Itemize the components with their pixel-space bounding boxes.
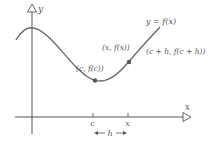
point-c — [93, 78, 97, 82]
point-x-label: (x, f(x)) — [102, 43, 130, 52]
y-axis-label: y — [37, 4, 44, 14]
interval-h: h — [94, 129, 127, 138]
y-axis: y — [28, 4, 45, 134]
interval-h-label: h — [108, 129, 113, 138]
arrow-left-icon — [94, 131, 98, 135]
x-axis-arrow-icon — [183, 113, 191, 122]
x-axis-label: x — [185, 102, 190, 112]
arrow-right-icon — [123, 131, 127, 135]
tick-x-label: x — [126, 119, 131, 128]
point-x — [127, 60, 131, 64]
derivative-diagram: y x y = f(x) (c, f(c)) (x, f(x)) (c + h,… — [0, 0, 219, 142]
curve-label: y = f(x) — [145, 17, 176, 26]
x-axis: x — [15, 102, 191, 122]
tick-c-label: c — [91, 119, 96, 128]
secant-point-label: (c + h, f(c + h)) — [146, 47, 205, 56]
y-axis-arrow-icon — [28, 4, 37, 12]
point-c-label: (c, f(c)) — [76, 64, 104, 73]
